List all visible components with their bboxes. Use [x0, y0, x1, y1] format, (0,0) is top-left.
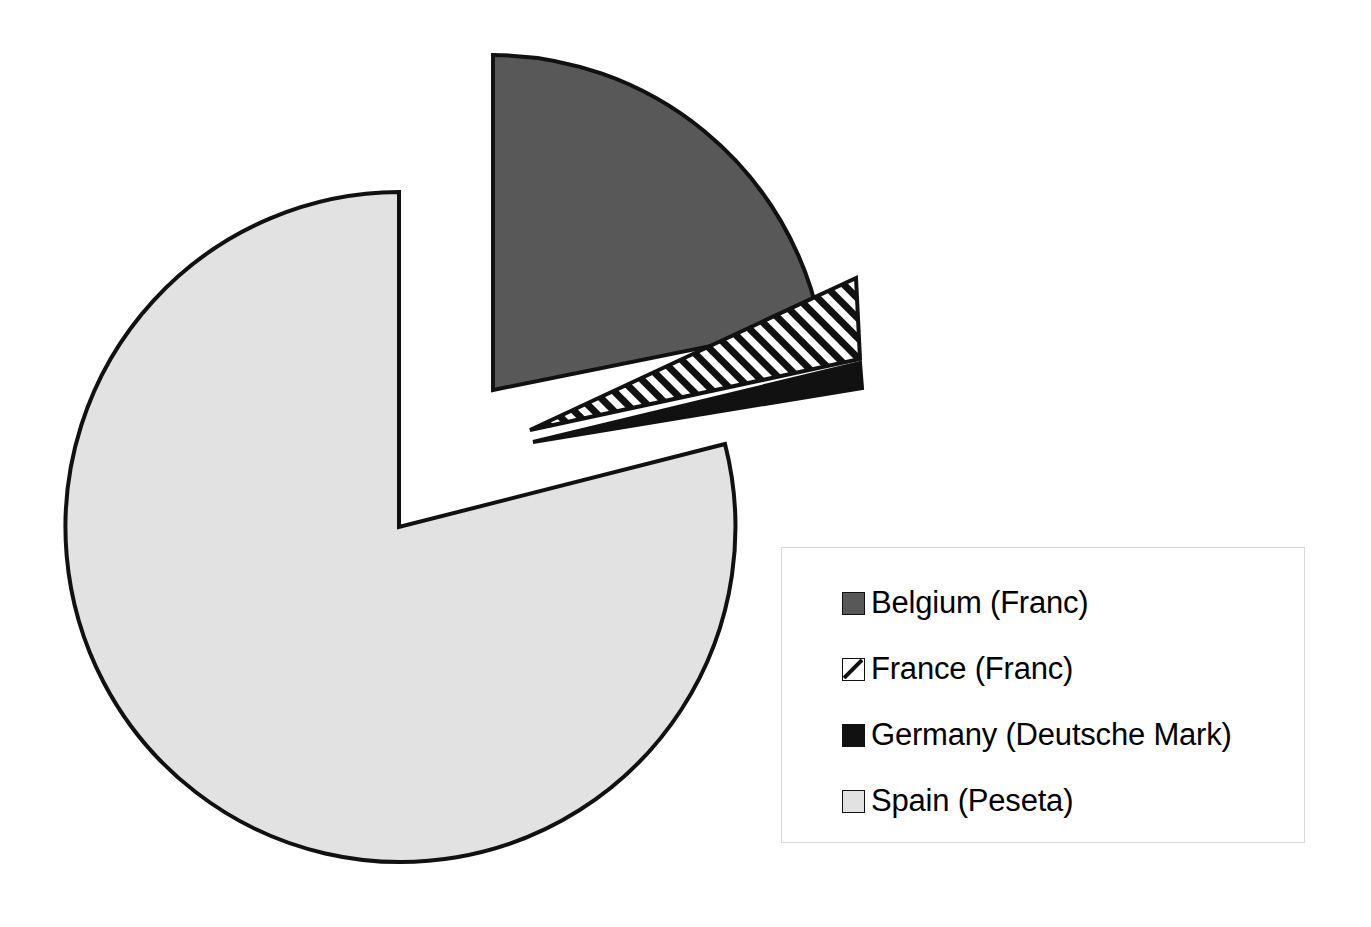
legend-label-france: France (Franc) — [871, 652, 1073, 686]
legend-swatch-belgium-icon — [842, 592, 865, 615]
legend-label-spain: Spain (Peseta) — [871, 784, 1073, 818]
legend-label-germany: Germany (Deutsche Mark) — [871, 718, 1232, 752]
legend-hatch-icon — [843, 659, 863, 679]
legend-item-belgium[interactable]: Belgium (Franc) — [842, 570, 1292, 636]
pie-chart-figure: Belgium (Franc) France (Franc) Germany (… — [0, 0, 1371, 927]
legend-swatch-germany-icon — [842, 724, 865, 747]
legend-label-belgium: Belgium (Franc) — [871, 586, 1089, 620]
legend-item-list: Belgium (Franc) France (Franc) Germany (… — [842, 570, 1292, 834]
legend-item-france[interactable]: France (Franc) — [842, 636, 1292, 702]
legend-item-germany[interactable]: Germany (Deutsche Mark) — [842, 702, 1292, 768]
legend-swatch-france-icon — [842, 658, 865, 681]
chart-legend: Belgium (Franc) France (Franc) Germany (… — [781, 547, 1305, 843]
legend-swatch-spain-icon — [842, 790, 865, 813]
legend-item-spain[interactable]: Spain (Peseta) — [842, 768, 1292, 834]
